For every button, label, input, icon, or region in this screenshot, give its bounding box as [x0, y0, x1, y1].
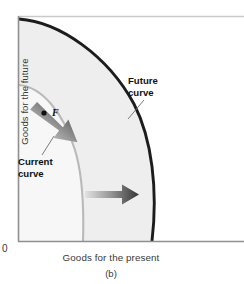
y-axis-title: Goods for the future [19, 43, 30, 161]
panel-caption: (b) [18, 268, 204, 279]
ppf-shift-figure: Goods for the future Goods for the prese… [0, 0, 244, 284]
origin-label: 0 [2, 243, 8, 255]
x-axis-title: Goods for the present [18, 252, 204, 264]
point-f-marker [41, 110, 46, 115]
chart-canvas [0, 0, 244, 284]
point-f-label: F [52, 107, 59, 119]
current-curve-label: Current curve [18, 156, 53, 179]
future-curve-label: Future curve [128, 75, 158, 98]
